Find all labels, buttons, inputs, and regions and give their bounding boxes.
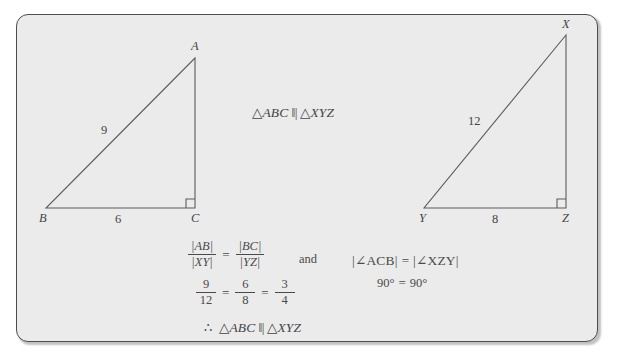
fraction-numerator: |AB| — [188, 240, 216, 254]
equals-sign: = — [257, 285, 272, 301]
similar-symbol: ‖| — [256, 320, 268, 335]
angle-xzy: |∠XZY| — [413, 252, 459, 269]
fraction-ab-over-xy: |AB| |XY| — [188, 240, 216, 270]
fraction-denominator: 4 — [279, 293, 291, 308]
vertex-label-a: A — [191, 40, 199, 53]
vertex-label-b: B — [39, 212, 47, 225]
vertex-label-x: X — [562, 18, 570, 31]
conclusion-row: ∴ △ABC‖|△XYZ — [204, 320, 301, 336]
conclusion-similarity-statement: △ABC‖|△XYZ — [219, 321, 301, 335]
fraction-3-over-4: 3 4 — [275, 278, 295, 308]
angle-values-row: 90° = 90° — [377, 275, 427, 291]
triangle-name-abc: ABC — [229, 320, 255, 335]
angle-acb: |∠ACB| — [352, 252, 398, 269]
similar-symbol: ‖| — [289, 105, 301, 120]
angle-statement-row: |∠ACB| = |∠XZY| — [352, 252, 459, 269]
angle-value-left: 90° — [377, 276, 395, 291]
fraction-numerator: 9 — [200, 278, 212, 292]
fraction-9-over-12: 9 12 — [196, 278, 216, 308]
ratio-statement-row: |AB| |XY| = |BC| |YZ| — [186, 240, 266, 270]
fraction-denominator: |YZ| — [237, 255, 264, 270]
side-length-bc: 6 — [115, 213, 121, 226]
triangle-glyph-right: △ — [300, 105, 310, 120]
fraction-denominator: 8 — [239, 293, 251, 308]
fraction-bc-over-yz: |BC| |YZ| — [236, 240, 265, 270]
fraction-6-over-8: 6 8 — [235, 278, 255, 308]
side-length-xy: 12 — [468, 115, 481, 128]
similarity-statement: △ABC‖|△XYZ — [252, 106, 334, 120]
triangle-name-xyz: XYZ — [310, 105, 334, 120]
equals-sign: = — [218, 285, 233, 301]
proof-block: |AB| |XY| = |BC| |YZ| and |∠ACB| = |∠XZY… — [0, 236, 617, 346]
side-length-yz: 8 — [492, 213, 498, 226]
equals-sign: = — [395, 275, 410, 291]
triangle-glyph-left: △ — [252, 105, 262, 120]
triangle-name-abc: ABC — [262, 105, 288, 120]
conjunction-and: and — [295, 252, 321, 267]
fraction-denominator: 12 — [197, 293, 216, 308]
angle-value-right: 90° — [410, 276, 428, 291]
triangle-name-xyz: XYZ — [277, 320, 301, 335]
therefore-symbol: ∴ — [204, 320, 219, 336]
fraction-numerator: 6 — [239, 278, 251, 292]
fraction-numerator: 3 — [279, 278, 291, 292]
vertex-label-y: Y — [419, 212, 426, 225]
vertex-label-z: Z — [562, 212, 569, 225]
numeric-ratio-row: 9 12 = 6 8 = 3 4 — [194, 278, 297, 308]
triangle-glyph-left: △ — [219, 320, 229, 335]
triangle-glyph-right: △ — [267, 320, 277, 335]
fraction-numerator: |BC| — [236, 240, 265, 254]
vertex-label-c: C — [191, 212, 199, 225]
equals-sign: = — [218, 247, 233, 263]
equals-sign: = — [398, 253, 413, 269]
fraction-denominator: |XY| — [188, 255, 215, 270]
diagram-scene: A B C 9 6 X Y Z 12 8 △ABC‖|△XYZ |AB| |XY… — [0, 0, 617, 361]
side-length-ab: 9 — [101, 124, 107, 137]
